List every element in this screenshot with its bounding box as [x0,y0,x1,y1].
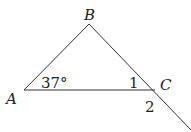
angle-2-label: 2 [145,98,155,116]
side-bc-extended [89,24,191,130]
vertex-label-a: A [4,90,17,108]
vertex-label-b: B [83,6,95,24]
vertex-label-c: C [160,76,172,94]
angle-1-label: 1 [129,74,139,92]
angle-a-label: 37° [41,74,68,92]
triangle-diagram: B A C 37° 1 2 [0,0,191,132]
